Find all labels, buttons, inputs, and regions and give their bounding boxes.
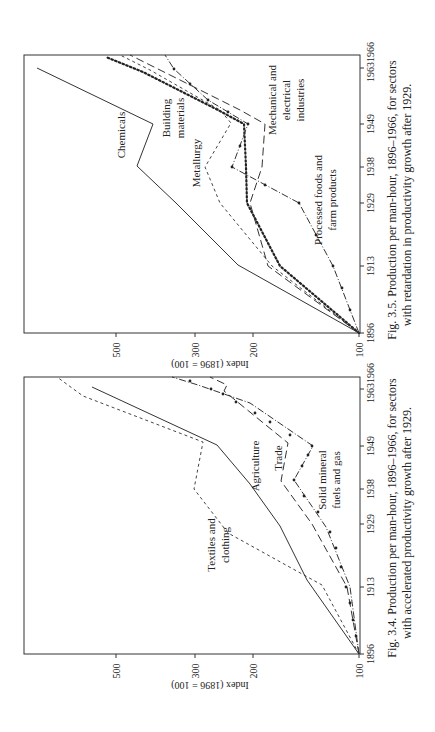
caption-line-1: Fig. 3.5. Production per man-hour, 1896–… bbox=[385, 60, 399, 340]
xtick-1949: 1949 bbox=[365, 436, 376, 456]
series-solid-fuels bbox=[172, 377, 359, 654]
plot-frame bbox=[24, 377, 360, 654]
xtick-1938: 1938 bbox=[365, 157, 376, 177]
xtick-1938: 1938 bbox=[365, 479, 376, 499]
xtick-1963: 1963 bbox=[365, 62, 376, 82]
label-textiles-1: Textiles and bbox=[205, 518, 217, 572]
label-textiles-2: clothing bbox=[219, 526, 231, 563]
xtick-1963: 1963 bbox=[365, 383, 376, 403]
label-mechanical-2: electrical bbox=[280, 80, 292, 120]
value-axis: 500 300 200 100 Index (1896 = 100) bbox=[111, 654, 365, 691]
ytick-500: 500 bbox=[111, 343, 122, 358]
ytick-100: 100 bbox=[354, 343, 365, 358]
label-metallurgy: Metallurgy bbox=[190, 138, 202, 187]
xtick-1949: 1949 bbox=[365, 114, 376, 134]
label-fuels-1: Solid mineral bbox=[316, 450, 328, 510]
xtick-1896: 1896 bbox=[365, 323, 376, 343]
year-axis: 1896 1913 1929 1938 1949 1963 1966 bbox=[360, 363, 376, 664]
series-textiles-clothing bbox=[57, 377, 359, 654]
caption-line-2: with retardation in productivity growth … bbox=[400, 84, 414, 326]
label-foods-1: Processed foods and bbox=[312, 155, 324, 245]
xtick-1966: 1966 bbox=[365, 42, 376, 62]
label-agriculture: Agriculture bbox=[249, 441, 261, 492]
y-axis-label: Index (1896 = 100) bbox=[171, 679, 249, 691]
xtick-1929: 1929 bbox=[365, 193, 376, 213]
label-chemicals: Chemicals bbox=[115, 112, 127, 158]
caption-line-1: Fig. 3.4. Production per man-hour, 1896–… bbox=[385, 378, 399, 658]
xtick-1929: 1929 bbox=[365, 514, 376, 534]
label-trade: Trade bbox=[272, 445, 284, 470]
year-axis: 1896 1913 1929 1938 1949 1963 1966 bbox=[360, 42, 376, 343]
label-fuels-2: fuels and gas bbox=[330, 451, 342, 508]
series-agriculture bbox=[92, 387, 359, 654]
label-mechanical-1: Mechanical and bbox=[266, 65, 278, 135]
ytick-300: 300 bbox=[190, 664, 201, 679]
xtick-1966: 1966 bbox=[365, 363, 376, 383]
label-foods-2: farm products bbox=[326, 169, 338, 230]
y-axis-label: Index (1896 = 100) bbox=[171, 358, 249, 370]
caption-line-2: with accelerated productivity growth aft… bbox=[400, 407, 414, 639]
series-mechanical-electrical bbox=[130, 55, 359, 333]
figures-canvas: 500 300 200 100 Index (1896 = 100) 1896 … bbox=[0, 0, 435, 732]
figure-3-5: 500 300 200 100 Index (1896 = 100) 1896 … bbox=[24, 42, 414, 370]
series-processed-foods-markers bbox=[173, 68, 352, 312]
page: 500 300 200 100 Index (1896 = 100) 1896 … bbox=[0, 0, 435, 732]
ytick-200: 200 bbox=[248, 343, 259, 358]
xtick-1913: 1913 bbox=[365, 577, 376, 597]
figure-3-4: 500 300 200 100 Index (1896 = 100) 1896 … bbox=[24, 363, 414, 691]
xtick-1896: 1896 bbox=[365, 644, 376, 664]
value-axis: 500 300 200 100 Index (1896 = 100) bbox=[111, 333, 365, 370]
label-building-1: Building bbox=[160, 98, 172, 137]
series-trade bbox=[210, 377, 359, 654]
ytick-500: 500 bbox=[111, 664, 122, 679]
ytick-200: 200 bbox=[248, 664, 259, 679]
series-chemicals bbox=[37, 68, 359, 333]
ytick-300: 300 bbox=[190, 343, 201, 358]
label-building-2: materials bbox=[174, 98, 186, 138]
xtick-1913: 1913 bbox=[365, 256, 376, 276]
label-mechanical-3: industries bbox=[294, 79, 306, 122]
ytick-100: 100 bbox=[354, 664, 365, 679]
